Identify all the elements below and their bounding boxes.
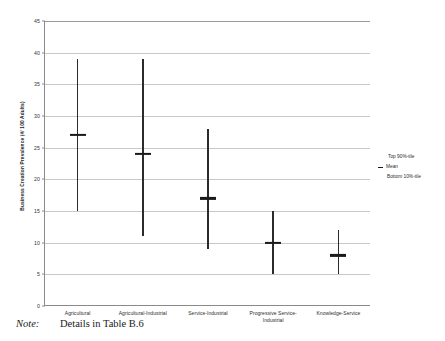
mean-marker: [200, 197, 216, 199]
y-tick-label-15: 15: [34, 208, 40, 214]
y-tick-mark-0: [42, 306, 45, 307]
gridline-30: [45, 116, 370, 117]
legend-item-bottom-percentile: Bottom 10%-tile: [378, 172, 442, 182]
legend-label-mean: Mean: [386, 162, 398, 172]
note-text: Details in Table B.6: [60, 318, 144, 329]
mean-marker: [70, 134, 86, 136]
figure-container: Business Creation Prevalence (#/ 100 Adu…: [0, 0, 445, 341]
gridline-35: [45, 84, 370, 85]
y-tick-mark-45: [42, 21, 45, 22]
note-label: Note:: [16, 318, 60, 329]
range-line: [338, 230, 340, 274]
gridline-40: [45, 53, 370, 54]
y-tick-mark-10: [42, 242, 45, 243]
y-tick-mark-35: [42, 84, 45, 85]
gridline-5: [45, 274, 370, 275]
y-tick-mark-40: [42, 52, 45, 53]
y-tick-label-40: 40: [34, 50, 40, 56]
y-axis-title: Business Creation Prevalence (#/ 100 Adu…: [20, 101, 25, 210]
y-tick-label-0: 0: [37, 303, 40, 309]
x-tick-label: Agricultural: [45, 310, 111, 317]
range-line: [142, 59, 144, 236]
legend-dash-icon: [378, 167, 383, 168]
legend-label-top-percentile: Top 90%-tile: [388, 152, 414, 162]
legend-item-top-percentile: Top 90%-tile: [378, 152, 442, 162]
mean-marker: [135, 153, 151, 155]
y-tick-label-25: 25: [34, 145, 40, 151]
plot-area: 051015202530354045AgriculturalAgricultur…: [44, 21, 370, 306]
x-tick-label: Knowledge-Service: [305, 310, 371, 317]
y-tick-label-10: 10: [34, 240, 40, 246]
y-tick-mark-15: [42, 211, 45, 212]
y-tick-mark-20: [42, 179, 45, 180]
y-tick-mark-30: [42, 116, 45, 117]
mean-marker: [330, 254, 346, 256]
y-tick-label-45: 45: [34, 18, 40, 24]
y-tick-mark-25: [42, 147, 45, 148]
y-tick-label-20: 20: [34, 176, 40, 182]
x-tick-label: Agricultural-Industrial: [110, 310, 176, 317]
legend-item-mean: Mean: [378, 162, 442, 172]
legend-label-bottom-percentile: Bottom 10%-tile: [387, 172, 421, 182]
y-tick-label-5: 5: [37, 271, 40, 277]
figure-note: Note:Details in Table B.6: [16, 318, 436, 329]
range-line: [207, 129, 209, 249]
chart-legend: Top 90%-tile Mean Bottom 10%-tile: [378, 152, 442, 182]
y-tick-label-30: 30: [34, 113, 40, 119]
x-tick-label: Service-Industrial: [175, 310, 241, 317]
y-tick-label-35: 35: [34, 81, 40, 87]
y-tick-mark-5: [42, 274, 45, 275]
mean-marker: [265, 242, 281, 244]
gridline-45: [45, 21, 370, 22]
